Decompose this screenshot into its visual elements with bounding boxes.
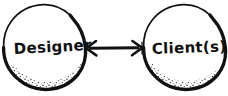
node-clients-label: Client(s)	[152, 37, 227, 58]
diagram-canvas: Designer Client(s)	[0, 0, 228, 96]
node-clients[interactable]: Client(s)	[144, 5, 228, 96]
diagram-illustration: Designer Client(s)	[0, 0, 228, 96]
node-designer[interactable]: Designer	[4, 5, 96, 96]
node-designer-label: Designer	[13, 36, 92, 58]
connector-designer-clients[interactable]	[86, 41, 142, 55]
